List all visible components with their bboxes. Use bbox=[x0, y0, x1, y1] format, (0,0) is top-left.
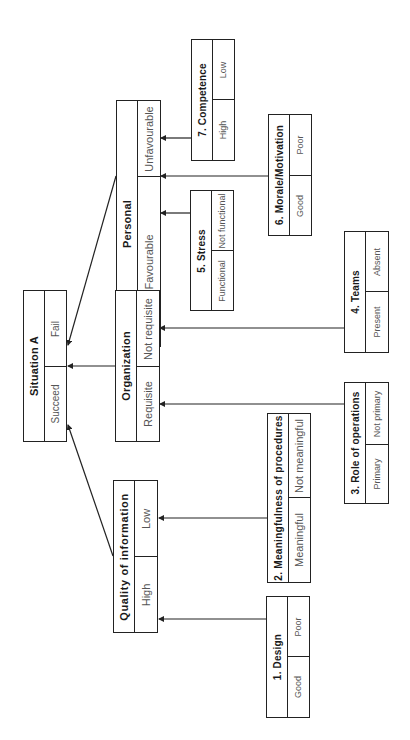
value-cell-not-functional: Not functional bbox=[211, 191, 233, 251]
value-cell-low: Low bbox=[134, 481, 157, 557]
value-label: Succeed bbox=[50, 385, 61, 424]
value-cell-meaningful: Meaningful bbox=[288, 498, 310, 582]
value-cell-requisite: Requisite bbox=[136, 367, 159, 441]
value-label: Absent bbox=[372, 247, 382, 275]
value-label: High bbox=[140, 583, 152, 606]
value-cell-good: Good bbox=[289, 176, 311, 235]
node-organization: Organization Not requisite Requisite bbox=[115, 290, 160, 442]
value-cell-fail: Fail bbox=[44, 291, 66, 367]
value-label: Poor bbox=[295, 135, 305, 154]
node-title: 6. Morale/Motivation bbox=[274, 125, 285, 225]
value-label: Unfavourable bbox=[143, 106, 155, 171]
value-label: Meaningful bbox=[293, 513, 305, 567]
node-meaningfulness-of-procedures: 2. Meaningfulness of procedures Not mean… bbox=[267, 413, 311, 583]
value-cell-present: Present bbox=[365, 292, 388, 352]
value-label: Functional bbox=[217, 260, 227, 302]
node-title: Quality of information bbox=[118, 493, 130, 620]
node-stress: 5. Stress Not functional Functional bbox=[190, 190, 234, 311]
node-title: 1. Design bbox=[272, 634, 283, 680]
value-cell-good: Good bbox=[287, 657, 309, 717]
node-design: 1. Design Poor Good bbox=[266, 596, 310, 718]
value-label: Low bbox=[140, 508, 152, 528]
node-title-cell: 3. Role of operations bbox=[345, 383, 366, 503]
value-cell-unfavourable: Unfavourable bbox=[137, 101, 160, 177]
node-title-cell: Organization bbox=[116, 291, 137, 441]
value-label: Not functional bbox=[217, 193, 227, 248]
node-role-of-operations: 3. Role of operations Not primary Primar… bbox=[344, 382, 389, 504]
node-title: 5. Stress bbox=[196, 229, 207, 273]
value-cell-succeed: Succeed bbox=[44, 367, 66, 441]
value-cell-primary: Primary bbox=[365, 445, 388, 503]
value-label: High bbox=[218, 121, 228, 140]
node-competence: 7. Competence Low High bbox=[191, 39, 235, 161]
value-label: Good bbox=[295, 194, 305, 216]
value-label: Not requisite bbox=[142, 298, 154, 360]
node-title-cell: 5. Stress bbox=[191, 191, 212, 310]
value-label: Requisite bbox=[142, 381, 154, 427]
value-cell-high: High bbox=[212, 100, 234, 160]
node-morale-motivation: 6. Morale/Motivation Poor Good bbox=[268, 114, 312, 236]
value-cell-not-meaningful: Not meaningful bbox=[288, 414, 310, 498]
node-title: 3. Role of operations bbox=[350, 391, 361, 494]
value-cell-poor: Poor bbox=[287, 597, 309, 657]
value-label: Not primary bbox=[372, 390, 382, 437]
value-cell-high: High bbox=[134, 557, 157, 632]
node-teams: 4. Teams Absent Present bbox=[344, 231, 389, 353]
value-label: Poor bbox=[293, 617, 303, 636]
value-cell-functional: Functional bbox=[211, 251, 233, 310]
node-title-cell: Quality of information bbox=[114, 481, 135, 632]
value-label: Favourable bbox=[143, 234, 155, 289]
value-cell-absent: Absent bbox=[365, 232, 388, 292]
value-label: Primary bbox=[372, 459, 382, 490]
node-title-cell: 6. Morale/Motivation bbox=[269, 115, 290, 235]
node-title-cell: Situation A bbox=[24, 291, 45, 441]
value-label: Not meaningful bbox=[293, 419, 305, 493]
node-title: Organization bbox=[120, 331, 132, 401]
node-title: Situation A bbox=[28, 336, 40, 396]
node-title: 4. Teams bbox=[350, 270, 361, 314]
node-title: 2. Meaningfulness of procedures bbox=[273, 415, 284, 580]
node-title: 7. Competence bbox=[197, 63, 208, 137]
node-quality-of-information: Quality of information Low High bbox=[113, 480, 158, 633]
node-title-cell: 1. Design bbox=[267, 597, 288, 717]
value-cell-not-requisite: Not requisite bbox=[136, 291, 159, 367]
value-label: Good bbox=[293, 676, 303, 698]
value-cell-not-primary: Not primary bbox=[365, 383, 388, 445]
value-cell-poor: Poor bbox=[289, 115, 311, 176]
node-title: Personal bbox=[121, 199, 133, 247]
node-situation-a: Situation A Fail Succeed bbox=[23, 290, 67, 442]
value-label: Fail bbox=[50, 320, 61, 336]
value-label: Present bbox=[372, 306, 382, 337]
value-cell-low: Low bbox=[212, 40, 234, 100]
node-title-cell: 2. Meaningfulness of procedures bbox=[268, 414, 289, 582]
value-label: Low bbox=[218, 61, 228, 78]
node-title-cell: 4. Teams bbox=[345, 232, 366, 352]
node-title-cell: 7. Competence bbox=[192, 40, 213, 160]
